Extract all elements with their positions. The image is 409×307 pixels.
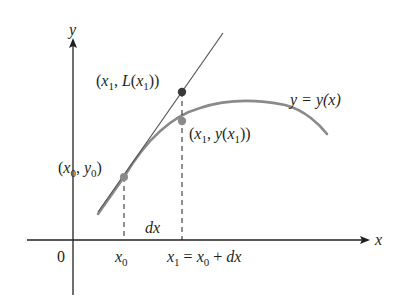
point-x0-y0	[120, 173, 128, 181]
tangent-line	[98, 33, 223, 212]
x1-tick-label: x1 = x0 + dx	[166, 248, 241, 268]
x0-tick-label: x0	[114, 248, 128, 268]
label-x1-L-x1: (x1, L(x1))	[96, 72, 159, 92]
origin-label: 0	[57, 248, 65, 265]
point-x1-L-x1	[178, 88, 186, 96]
point-x1-y-x1	[178, 117, 186, 125]
label-x1-y-x1: (x1, y(x1))	[189, 125, 251, 145]
linear-approximation-diagram: y x 0 y = y(x) (x1, L(x1)) (x1, y(x1)) (…	[0, 0, 409, 307]
curve-label: y = y(x)	[288, 91, 341, 109]
curve-y-of-x	[98, 101, 327, 214]
y-axis-label: y	[67, 21, 77, 39]
dx-label: dx	[145, 219, 160, 236]
label-x0-y0: (x0, y0)	[58, 159, 102, 179]
x-axis-label: x	[374, 231, 382, 248]
